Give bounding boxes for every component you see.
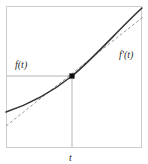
figure-canvas: f(t) f'(t) t [0, 0, 148, 164]
derivative-figure: f(t) f'(t) t [0, 0, 148, 164]
x-tick-label: t [69, 152, 72, 163]
function-label: f(t) [15, 59, 28, 71]
derivative-label: f'(t) [119, 49, 134, 61]
point-of-tangency-marker [69, 73, 74, 78]
tangent-line [6, 17, 143, 126]
